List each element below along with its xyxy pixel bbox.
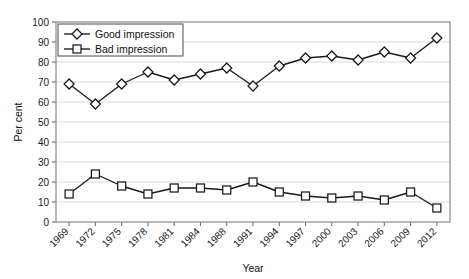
diamond-marker bbox=[353, 55, 363, 65]
diamond-marker bbox=[222, 63, 232, 73]
y-tick-label: 80 bbox=[38, 57, 50, 68]
y-tick-label: 100 bbox=[32, 17, 49, 28]
x-tick-label: 1975 bbox=[100, 225, 124, 249]
y-tick-label: 40 bbox=[38, 137, 50, 148]
x-tick-label: 2009 bbox=[389, 225, 413, 249]
y-tick-label: 0 bbox=[43, 217, 49, 228]
diamond-marker bbox=[195, 69, 205, 79]
square-marker bbox=[328, 194, 336, 202]
chart-legend: Good impressionBad impression bbox=[58, 24, 183, 56]
y-tick-label: 70 bbox=[38, 77, 50, 88]
square-marker bbox=[196, 184, 204, 192]
y-tick-label: 90 bbox=[38, 37, 50, 48]
x-tick-label: 1997 bbox=[283, 225, 307, 249]
x-axis-tick-marks bbox=[69, 222, 437, 226]
x-tick-label: 1978 bbox=[126, 225, 150, 249]
legend-label: Good impression bbox=[95, 28, 175, 40]
chart-figure: 0102030405060708090100 19691972197519781… bbox=[0, 0, 469, 279]
y-tick-label: 50 bbox=[38, 117, 50, 128]
series-bad-impression bbox=[65, 170, 441, 212]
square-marker bbox=[73, 45, 81, 53]
square-marker bbox=[380, 196, 388, 204]
x-tick-label: 2000 bbox=[310, 225, 334, 249]
line-chart: 0102030405060708090100 19691972197519781… bbox=[0, 0, 469, 279]
diamond-marker bbox=[327, 51, 337, 61]
x-tick-label: 2006 bbox=[362, 225, 386, 249]
y-axis-title: Per cent bbox=[12, 102, 24, 141]
square-marker bbox=[65, 190, 73, 198]
square-marker bbox=[275, 188, 283, 196]
square-marker bbox=[354, 192, 362, 200]
x-tick-label: 1984 bbox=[178, 225, 202, 249]
y-tick-label: 10 bbox=[38, 197, 50, 208]
square-marker bbox=[302, 192, 310, 200]
y-tick-label: 30 bbox=[38, 157, 50, 168]
x-tick-label: 1994 bbox=[257, 225, 281, 249]
diamond-marker bbox=[379, 47, 389, 57]
legend-label: Bad impression bbox=[95, 43, 168, 55]
x-tick-label: 1991 bbox=[231, 225, 255, 249]
x-axis-title: Year bbox=[242, 262, 264, 274]
x-tick-label: 2012 bbox=[415, 225, 439, 249]
x-tick-label: 1969 bbox=[47, 225, 71, 249]
x-axis-tick-labels: 1969197219751978198119841988199119941997… bbox=[47, 225, 439, 249]
square-marker bbox=[433, 204, 441, 212]
diamond-marker bbox=[169, 75, 179, 85]
x-tick-label: 1988 bbox=[205, 225, 229, 249]
diamond-marker bbox=[143, 67, 153, 77]
square-marker bbox=[407, 188, 415, 196]
square-marker bbox=[118, 182, 126, 190]
x-tick-label: 1972 bbox=[73, 225, 97, 249]
square-marker bbox=[91, 170, 99, 178]
square-marker bbox=[170, 184, 178, 192]
y-axis-tick-labels: 0102030405060708090100 bbox=[32, 17, 49, 228]
square-marker bbox=[223, 186, 231, 194]
y-tick-label: 20 bbox=[38, 177, 50, 188]
square-marker bbox=[249, 178, 257, 186]
square-marker bbox=[144, 190, 152, 198]
y-tick-label: 60 bbox=[38, 97, 50, 108]
x-tick-label: 1981 bbox=[152, 225, 176, 249]
x-tick-label: 2003 bbox=[336, 225, 360, 249]
